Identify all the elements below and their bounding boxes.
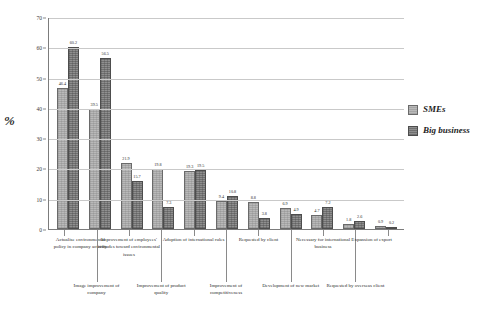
bar-value-label: 7.3 <box>166 201 171 205</box>
gridline-50 <box>49 79 404 80</box>
bar-group: 0.90.2 <box>370 18 402 229</box>
bar-value-label: 56.5 <box>102 52 109 56</box>
bar-big-business: 15.7 <box>132 181 143 229</box>
bar-group: 8.83.8 <box>243 18 275 229</box>
x-category-text: Development of new market <box>259 282 322 289</box>
bar-value-label: 7.2 <box>325 201 330 205</box>
bar-big-business: 0.2 <box>386 227 397 229</box>
y-tick-label-20: 20 <box>37 166 43 172</box>
x-category-text: Adoption of international rules <box>162 236 225 243</box>
legend-swatch-smes <box>408 105 418 115</box>
bar-smes: 6.9 <box>280 208 291 229</box>
gridline-40 <box>49 109 404 110</box>
x-category-tick <box>258 230 259 236</box>
bar-smes: 1.8 <box>343 224 354 229</box>
y-tick-mark-30 <box>43 139 46 140</box>
bar-big-business: 7.3 <box>163 207 174 229</box>
legend-swatch-big-business <box>408 126 418 136</box>
bar-value-label: 9.4 <box>219 195 224 199</box>
bar-value-label: 0.2 <box>389 221 394 225</box>
legend-label-big-business: Big business <box>423 125 470 135</box>
bar-value-label: 1.8 <box>346 218 351 222</box>
y-tick-label-0: 0 <box>39 227 42 233</box>
bar-chart: % 706050403020100 46.460.239.556.521.915… <box>0 0 485 327</box>
y-tick-mark-60 <box>43 48 46 49</box>
x-category-text: Improvement of competitiveness <box>195 282 258 297</box>
bar-smes: 9.4 <box>216 201 227 229</box>
bar-group: 9.410.8 <box>211 18 243 229</box>
bar-value-label: 19.8 <box>154 163 161 167</box>
legend-label-smes: SMEs <box>423 104 446 114</box>
bar-value-label: 4.7 <box>314 209 319 213</box>
y-axis-title: % <box>4 113 14 129</box>
x-category-tick <box>388 230 389 236</box>
bar-group: 46.460.2 <box>52 18 84 229</box>
bar-value-label: 21.9 <box>122 157 129 161</box>
bar-big-business: 3.8 <box>259 218 270 230</box>
y-tick-mark-50 <box>43 78 46 79</box>
x-category-label: Requested by overseas client <box>323 282 388 289</box>
bar-group: 39.556.5 <box>84 18 116 229</box>
y-tick-label-40: 40 <box>37 106 43 112</box>
x-category-label: Improvement of product quality <box>129 282 194 297</box>
bar-value-label: 60.2 <box>70 41 77 45</box>
bar-smes: 8.8 <box>248 202 259 229</box>
x-category-label: Requested by client <box>226 236 291 243</box>
bar-value-label: 19.3 <box>186 165 193 169</box>
bar-group: 21.915.7 <box>116 18 148 229</box>
gridline-10 <box>49 200 404 201</box>
gridline-20 <box>49 169 404 170</box>
x-category-tick <box>194 230 195 236</box>
y-tick-label-50: 50 <box>37 76 43 82</box>
x-category-label: Improvement of competitiveness <box>194 282 259 297</box>
x-axis-category-labels: Actualise environmental policy in compan… <box>48 230 404 327</box>
x-category-tick <box>323 230 324 236</box>
bar-smes: 0.9 <box>375 226 386 229</box>
bar-smes: 21.9 <box>121 163 132 229</box>
y-tick-mark-40 <box>43 108 46 109</box>
y-tick-mark-0 <box>43 230 46 231</box>
gridline-60 <box>49 48 404 49</box>
x-category-text: Expansion of export <box>340 236 403 243</box>
bar-smes: 4.7 <box>311 215 322 229</box>
bar-value-label: 39.5 <box>91 103 98 107</box>
y-tick-label-30: 30 <box>37 136 43 142</box>
bar-value-label: 3.8 <box>262 212 267 216</box>
bar-group: 1.82.6 <box>338 18 370 229</box>
bar-value-label: 15.7 <box>133 175 140 179</box>
bar-value-label: 6.9 <box>282 202 287 206</box>
bar-big-business: 56.5 <box>100 58 111 229</box>
y-tick-label-10: 10 <box>37 197 43 203</box>
y-axis-ticks: 706050403020100 <box>24 18 46 230</box>
bar-value-label: 46.4 <box>59 82 66 86</box>
x-category-label: Development of new market <box>258 282 323 289</box>
bar-big-business: 60.2 <box>68 47 79 229</box>
bar-group: 4.77.2 <box>307 18 339 229</box>
legend-entry-big-business: Big business <box>408 125 483 136</box>
y-tick-mark-20 <box>43 169 46 170</box>
x-category-label: Expansion of export <box>339 236 404 243</box>
x-category-tick <box>129 230 130 236</box>
y-tick-label-70: 70 <box>37 15 43 21</box>
y-tick-label-60: 60 <box>37 45 43 51</box>
legend-entry-smes: SMEs <box>408 104 483 115</box>
x-category-text: Improvement of employees' attitudes towa… <box>98 236 161 258</box>
y-tick-mark-10 <box>43 199 46 200</box>
bar-big-business: 7.2 <box>322 207 333 229</box>
x-category-label: Adoption of international rules <box>161 236 226 243</box>
gridline-70 <box>49 18 404 19</box>
bar-value-label: 10.8 <box>229 190 236 194</box>
gridline-30 <box>49 139 404 140</box>
chart-legend: SMEs Big business <box>408 104 483 146</box>
bar-big-business: 4.9 <box>291 214 302 229</box>
bar-group: 19.319.5 <box>179 18 211 229</box>
plot-area: 46.460.239.556.521.915.719.87.319.319.59… <box>48 18 404 230</box>
y-tick-mark-70 <box>43 18 46 19</box>
bar-groups: 46.460.239.556.521.915.719.87.319.319.59… <box>49 18 404 229</box>
bar-group: 19.87.3 <box>147 18 179 229</box>
bar-value-label: 2.6 <box>357 215 362 219</box>
bar-group: 6.94.9 <box>275 18 307 229</box>
x-category-text: Image improvement of company <box>65 282 128 297</box>
bar-big-business: 10.8 <box>227 196 238 229</box>
x-category-label: Improvement of employees' attitudes towa… <box>97 236 162 258</box>
